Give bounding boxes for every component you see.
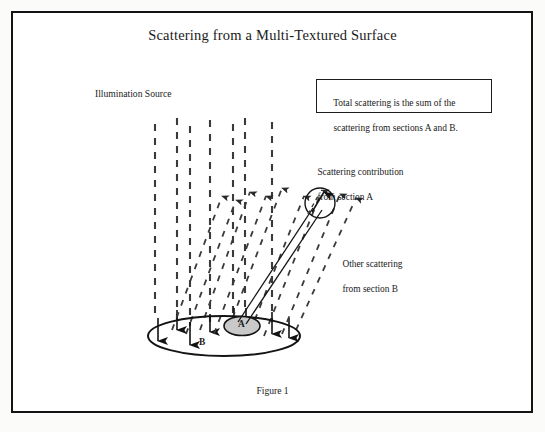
scattering-diagram (0, 0, 545, 432)
info-box-line1: Total scattering is the sum of the (333, 98, 455, 108)
section-b-annotation-line2: from section B (342, 284, 398, 294)
section-a-annotation-line1: Scattering contribution (317, 167, 403, 177)
section-b-annotation-line1: Other scattering (342, 259, 402, 269)
info-box-line2: scattering from sections A and B. (333, 123, 457, 133)
section-b-annotation: Other scattering from section B (333, 245, 403, 308)
figure-page: Scattering from a Multi-Textured Surface… (0, 0, 545, 432)
section-b-label: B (199, 337, 205, 349)
illumination-rays (155, 118, 272, 326)
info-box-text: Total scattering is the sum of the scatt… (324, 84, 488, 147)
section-a-label: A (238, 319, 245, 331)
section-a-beam (238, 208, 322, 324)
section-a-annotation-line2: from section A (317, 192, 373, 202)
surface-ellipse (148, 316, 300, 356)
section-a-annotation: Scattering contribution from section A (308, 153, 404, 216)
page-title: Scattering from a Multi-Textured Surface (0, 26, 545, 44)
illumination-source-label: Illumination Source (95, 88, 171, 100)
figure-caption: Figure 1 (0, 385, 545, 397)
